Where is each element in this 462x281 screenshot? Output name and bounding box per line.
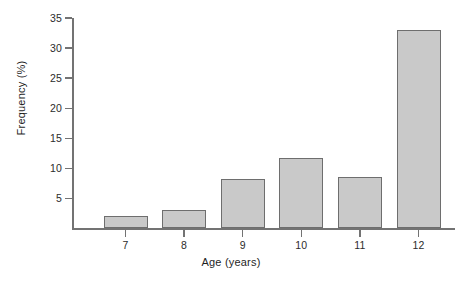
bar-age-7 — [104, 216, 148, 228]
y-axis-tick-label-text: 5 — [36, 192, 62, 204]
y-axis-tick-label: 15 — [36, 132, 62, 144]
y-axis-tick — [65, 138, 72, 139]
y-axis-tick-label: 35 — [36, 12, 62, 24]
x-axis-tick-label: 9 — [223, 239, 263, 251]
y-axis-tick-label: 30 — [36, 42, 62, 54]
y-axis-tick-label: 5 — [36, 192, 62, 204]
x-axis-tick-label: 7 — [106, 239, 146, 251]
x-axis-tick-label: 12 — [399, 239, 439, 251]
y-axis-tick — [65, 77, 72, 78]
x-axis-tick — [418, 229, 419, 237]
y-axis-title: Frequency (%) — [15, 28, 27, 168]
y-axis-tick-label-text: 35 — [36, 12, 62, 24]
bar-age-10 — [279, 158, 323, 229]
bar-age-8 — [162, 210, 206, 228]
y-axis-tick-label-text: 25 — [36, 72, 62, 84]
y-axis-tick — [65, 17, 72, 18]
y-axis-tick-label: 20 — [36, 102, 62, 114]
x-axis-tick-label: 8 — [164, 239, 204, 251]
y-axis-tick-label-text: 20 — [36, 102, 62, 114]
x-axis-tick — [242, 229, 243, 237]
x-axis-tick-label: 11 — [340, 239, 380, 251]
x-axis-tick — [125, 229, 126, 237]
y-axis-tick — [65, 108, 72, 109]
bar-age-11 — [338, 177, 382, 229]
y-axis-line — [72, 18, 74, 229]
y-axis-tick — [65, 198, 72, 199]
bar-age-12 — [397, 30, 441, 228]
y-axis-tick-label-text: 30 — [36, 42, 62, 54]
x-axis-title: Age (years) — [0, 256, 462, 268]
x-axis-tick — [359, 229, 360, 237]
y-axis-tick-label: 10 — [36, 162, 62, 174]
bar-chart-figure: 5101520253035 789101112 Age (years) Freq… — [0, 0, 462, 281]
x-axis-tick — [301, 229, 302, 237]
x-axis-tick-label: 10 — [281, 239, 321, 251]
y-axis-tick — [65, 47, 72, 48]
y-axis-tick — [65, 168, 72, 169]
y-axis-tick-label: 25 — [36, 72, 62, 84]
bar-age-9 — [221, 179, 265, 228]
y-axis-tick-label-text: 15 — [36, 132, 62, 144]
x-axis-tick — [183, 229, 184, 237]
y-axis-tick-label-text: 10 — [36, 162, 62, 174]
